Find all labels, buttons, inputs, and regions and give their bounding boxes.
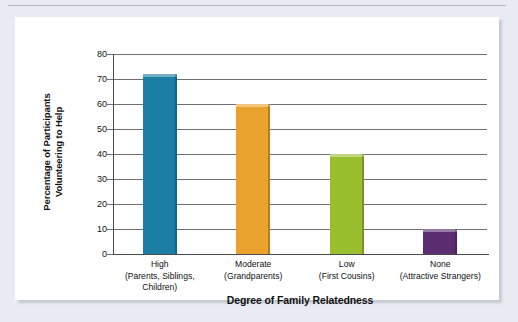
y-axis-tick-mark bbox=[107, 229, 113, 230]
bar-fill bbox=[236, 104, 270, 254]
y-axis-tick-label: 10 bbox=[81, 224, 107, 234]
y-axis-tick-mark bbox=[107, 154, 113, 155]
y-axis-tick-mark bbox=[107, 254, 113, 255]
x-axis-category-sublabel: (Attractive Strangers) bbox=[394, 271, 488, 283]
y-axis-tick-label: 70 bbox=[81, 74, 107, 84]
y-axis-tick-label: 80 bbox=[81, 49, 107, 59]
y-axis-tick-mark bbox=[107, 79, 113, 80]
y-axis-tick-mark bbox=[107, 204, 113, 205]
y-axis-tick-mark bbox=[107, 129, 113, 130]
x-axis-category-label: Moderate(Grandparents) bbox=[207, 259, 301, 282]
y-axis-tick-label: 0 bbox=[81, 249, 107, 259]
y-axis-tick-mark bbox=[107, 104, 113, 105]
x-axis-category-sublabel: (Parents, Siblings, Children) bbox=[113, 271, 207, 294]
x-axis-category-label: High(Parents, Siblings, Children) bbox=[113, 259, 207, 294]
bar-highlight bbox=[423, 229, 457, 232]
x-axis-category-sublabel: (Grandparents) bbox=[207, 271, 301, 283]
y-axis-title-line-1: Percentage of Participants bbox=[41, 93, 53, 210]
bar bbox=[423, 229, 457, 254]
x-axis-category-label: None(Attractive Strangers) bbox=[394, 259, 488, 282]
y-axis-title-line-2: Volunteering to Help bbox=[52, 93, 64, 210]
bar-shading-edge bbox=[362, 154, 364, 254]
bar bbox=[330, 154, 364, 254]
chart-figure: Percentage of Participants Volunteering … bbox=[0, 0, 518, 322]
x-axis-category-name: High bbox=[113, 259, 207, 271]
x-axis-category-name: Low bbox=[300, 259, 394, 271]
x-axis-category-label: Low(First Cousins) bbox=[300, 259, 394, 282]
bar-highlight bbox=[236, 104, 270, 107]
y-axis-title: Percentage of Participants Volunteering … bbox=[41, 47, 63, 257]
y-axis-tick-mark bbox=[107, 54, 113, 55]
y-axis-tick-label: 40 bbox=[81, 149, 107, 159]
bar-highlight bbox=[143, 74, 177, 77]
x-axis-line bbox=[113, 254, 489, 255]
x-axis-tick-labels: High(Parents, Siblings, Children)Moderat… bbox=[113, 259, 487, 291]
bar bbox=[143, 74, 177, 254]
bar-series bbox=[113, 54, 487, 254]
x-axis-category-sublabel: (First Cousins) bbox=[300, 271, 394, 283]
x-axis-category-name: None bbox=[394, 259, 488, 271]
chart-panel: Percentage of Participants Volunteering … bbox=[15, 17, 499, 300]
y-axis-tick-label: 60 bbox=[81, 99, 107, 109]
y-axis-tick-label: 50 bbox=[81, 124, 107, 134]
bar-shading-edge bbox=[268, 104, 270, 254]
bar-fill bbox=[143, 74, 177, 254]
scan-artifact-line bbox=[8, 5, 506, 6]
bar-fill bbox=[330, 154, 364, 254]
y-axis-tick-label: 20 bbox=[81, 199, 107, 209]
bar-shading-edge bbox=[175, 74, 177, 254]
y-axis-tick-labels: 80706050403020100 bbox=[73, 54, 107, 254]
x-axis-title: Degree of Family Relatedness bbox=[113, 294, 487, 306]
bar bbox=[236, 104, 270, 254]
y-axis-tick-mark bbox=[107, 179, 113, 180]
y-axis-tick-label: 30 bbox=[81, 174, 107, 184]
bar-fill bbox=[423, 229, 457, 254]
bar-highlight bbox=[330, 154, 364, 157]
x-axis-category-name: Moderate bbox=[207, 259, 301, 271]
bar-shading-edge bbox=[455, 229, 457, 254]
